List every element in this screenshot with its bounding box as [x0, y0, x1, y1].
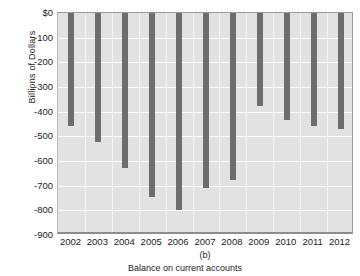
panel-label: (b): [57, 250, 353, 260]
gridline-vertical: [246, 13, 247, 232]
gridline-vertical: [273, 13, 274, 232]
figure-bar-chart: Billions of Dollars $0-100-200-300-400-5…: [0, 0, 360, 276]
bar: [338, 13, 344, 129]
gridline-vertical: [166, 13, 167, 232]
bar: [203, 13, 209, 188]
x-axis-tick-label: 2012: [323, 236, 357, 247]
gridline-vertical: [327, 13, 328, 232]
bar: [176, 13, 182, 210]
bar: [230, 13, 236, 180]
y-axis-tick-label: -700: [1, 179, 53, 190]
gridline-vertical: [85, 13, 86, 232]
y-axis-tick-label: -200: [1, 56, 53, 67]
bar: [257, 13, 263, 106]
plot-area: [57, 12, 353, 234]
gridline-vertical: [112, 13, 113, 232]
bar: [311, 13, 317, 126]
y-axis-tick-label: -100: [1, 31, 53, 42]
y-axis-tick-labels: $0-100-200-300-400-500-600-700-800-900: [0, 0, 53, 276]
y-axis-tick-label: -900: [1, 229, 53, 240]
y-axis-tick-label: -800: [1, 204, 53, 215]
y-axis-tick-label: -600: [1, 155, 53, 166]
chart-caption: Balance on current accounts: [20, 263, 350, 273]
bar: [95, 13, 101, 142]
bar: [122, 13, 128, 168]
y-axis-tick-label: $0: [1, 7, 53, 18]
gridline-vertical: [219, 13, 220, 232]
gridline-vertical: [193, 13, 194, 232]
y-axis-tick-label: -500: [1, 130, 53, 141]
gridline-horizontal: [58, 210, 352, 211]
bar: [284, 13, 290, 120]
bar: [68, 13, 74, 126]
gridline-vertical: [139, 13, 140, 232]
bar: [149, 13, 155, 197]
y-axis-tick-label: -300: [1, 81, 53, 92]
x-axis-tick-labels: 2002200320042005200620072008200920102011…: [57, 236, 353, 250]
gridline-vertical: [300, 13, 301, 232]
y-axis-tick-label: -400: [1, 105, 53, 116]
